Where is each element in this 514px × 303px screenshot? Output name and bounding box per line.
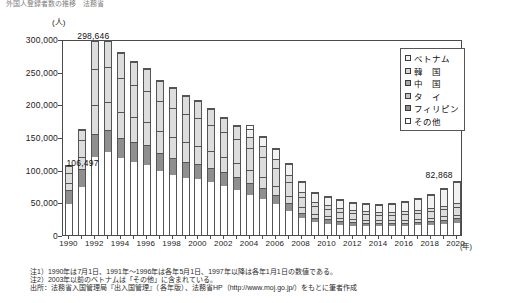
bar-segment-その他 [260,199,266,235]
x-axis-tick-label: 2018 [420,239,439,248]
bar-2004 [246,125,254,235]
bar-segment-中国 [312,206,318,214]
bar-segment-ベトナム [454,182,460,203]
bar-segment-韓国 [234,126,240,139]
bar-segment-韓国 [260,146,266,156]
bar-segment-その他 [234,190,240,235]
bar-segment-タイ [144,122,150,145]
bar-segment-ベトナム [273,149,279,159]
bar-segment-韓国 [131,62,137,85]
bar-segment-韓国 [221,118,227,132]
x-axis-unit-label: (年) [460,240,472,251]
bar-segment-その他 [92,157,98,235]
bar-segment-韓国 [79,130,85,140]
bar-segment-その他 [337,225,343,235]
source-line: 出所：法務省入国管理局『出入国管理』（各年版）、法務省HP（http://www… [30,284,510,292]
bar-2003 [233,125,241,235]
bar-1999 [182,95,190,235]
chart-legend: ベトナム韓 国中 国タ イフィリピンその他 [400,48,465,131]
bar-segment-中国 [183,114,189,143]
bar-segment-ベトナム [312,193,318,202]
bar-segment-タイ [195,146,201,164]
bar-segment-タイ [183,142,189,161]
bar-segment-韓国 [195,101,201,118]
y-axis-ticks [0,40,62,236]
bar-segment-中国 [195,118,201,145]
bar-2018 [427,194,435,235]
x-axis-tick [288,235,289,239]
x-axis-tick-label: 1994 [111,239,130,248]
value-callout: 298,646 [77,31,109,41]
bar-segment-中国 [118,78,124,112]
x-axis-tick-label: 2002 [214,239,233,248]
bar-segment-中国 [170,108,176,137]
bar-segment-フィリピン [234,177,240,190]
bar-2007 [285,163,293,235]
bar-segment-韓国 [247,137,253,149]
x-axis-tick [107,235,108,239]
bar-2015 [388,203,396,235]
bar-segment-その他 [105,152,111,235]
bar-segment-フィリピン [144,145,150,164]
bar-2002 [220,117,228,235]
x-axis-tick [417,235,418,239]
bar-segment-韓国 [170,88,176,107]
x-axis-tick-label: 1996 [137,239,156,248]
bar-1998 [169,87,177,235]
bar-segment-その他 [350,226,356,236]
bar-2011 [336,199,344,235]
bar-1990 [65,165,73,235]
bar-segment-その他 [157,171,163,235]
x-axis-tick-label: 2012 [343,239,362,248]
value-callout: 106,497 [66,158,98,168]
bar-segment-中国 [144,91,150,122]
bar-segment-その他 [79,187,85,235]
x-axis-tick [443,235,444,239]
bar-segment-フィリピン [183,162,189,178]
bar-segment-タイ [247,170,253,183]
bar-segment-ベトナム [415,199,421,210]
bar-segment-中国 [299,197,305,207]
bar-2016 [401,201,409,235]
legend-item: 韓 国 [405,65,459,78]
bar-segment-中国 [454,207,460,215]
bar-segment-その他 [195,179,201,235]
bar-segment-その他 [183,178,189,235]
bar-2017 [414,198,422,235]
bar-segment-フィリピン [92,134,98,157]
bar-segment-タイ [273,186,279,195]
bar-2009 [311,192,319,235]
bar-segment-ベトナム [286,164,292,175]
bar-1996 [143,68,151,235]
bar-2006 [272,148,280,235]
bar-segment-その他 [428,225,434,235]
x-axis-tick [210,235,211,239]
bar-1995 [130,61,138,235]
legend-swatch-icon [405,93,411,99]
bar-segment-ベトナム [363,204,369,211]
bar-segment-ベトナム [299,182,305,192]
legend-swatch-icon [405,80,411,86]
bar-segment-中国 [92,69,98,105]
x-axis-tick-label: 2014 [369,239,388,248]
bar-segment-ベトナム [441,189,447,206]
bar-segment-フィリピン [260,188,266,198]
bar-segment-タイ [260,177,266,188]
bar-segment-タイ [170,137,176,158]
bar-segment-中国 [234,139,240,162]
bar-segment-その他 [454,223,460,235]
x-axis-tick [391,235,392,239]
bar-segment-韓国 [157,81,163,102]
legend-label: フィリピン [414,102,459,114]
legend-label: ベトナム [414,52,450,64]
bar-segment-その他 [363,226,369,235]
bar-1994 [117,52,125,235]
bar-segment-中国 [131,85,137,117]
bar-segment-タイ [118,112,124,138]
bar-segment-韓国 [144,69,150,91]
bar-segment-その他 [247,195,253,235]
value-callout: 82,868 [426,170,453,180]
bar-segment-その他 [325,224,331,235]
bar-segment-その他 [415,225,421,235]
bar-segment-その他 [221,186,227,235]
